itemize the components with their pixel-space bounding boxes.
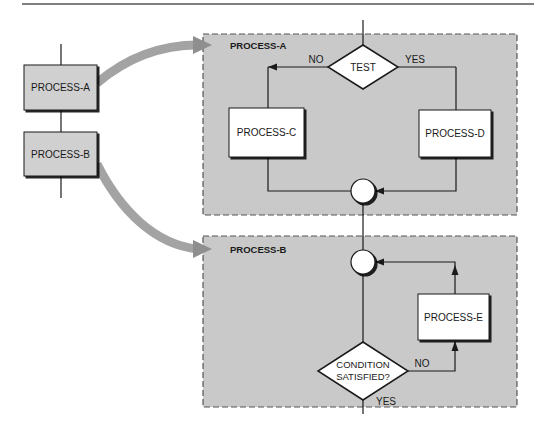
condition-yes-label: YES: [376, 396, 396, 407]
junction-b-connector: [351, 250, 375, 274]
expand-arrow-a: [97, 45, 198, 83]
test-yes-label: YES: [405, 54, 425, 65]
diagram-canvas: PROCESS-A PROCESS-B PROCESS-A TEST NO YE…: [0, 0, 534, 433]
outer-process-a-label: PROCESS-A: [31, 82, 90, 93]
process-a-panel-title: PROCESS-A: [230, 40, 287, 51]
condition-label-line2: SATISFIED?: [336, 371, 390, 382]
junction-a-connector: [351, 179, 375, 203]
flowchart: PROCESS-A PROCESS-B PROCESS-A TEST NO YE…: [0, 0, 534, 433]
condition-no-label: NO: [415, 358, 430, 369]
expand-arrow-b: [97, 164, 198, 249]
process-e-label: PROCESS-E: [424, 312, 483, 323]
outer-process-b-label: PROCESS-B: [31, 149, 90, 160]
process-b-panel-title: PROCESS-B: [230, 244, 287, 255]
process-d-label: PROCESS-D: [425, 128, 484, 139]
process-c-label: PROCESS-C: [237, 127, 296, 138]
test-decision-label: TEST: [350, 62, 376, 73]
condition-label-line1: CONDITION: [336, 359, 389, 370]
test-no-label: NO: [309, 54, 324, 65]
